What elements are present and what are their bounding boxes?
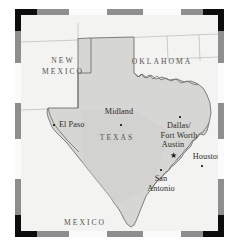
frame-left-corner-bottom (15, 215, 21, 237)
frame-bottom-seg-1 (37, 231, 69, 237)
frame-right-seg-5 (218, 179, 224, 215)
frame-left-corner-top (15, 9, 21, 31)
frame-top-seg-5 (181, 9, 203, 15)
frame-right-seg-4 (218, 139, 224, 179)
frame-top-seg-1 (37, 9, 69, 15)
frame-bottom-seg-5 (181, 231, 203, 237)
frame-right-corner-bottom (218, 215, 224, 237)
frame-left-seg-2 (15, 63, 21, 103)
frame-right-seg-2 (218, 63, 224, 103)
frame-right-corner-top (218, 9, 224, 31)
frame-left-seg-1 (15, 31, 21, 63)
frame-right-seg-1 (218, 31, 224, 63)
frame-bottom-seg-3 (107, 231, 143, 237)
frame-left-seg-5 (15, 179, 21, 215)
frame-left-seg-3 (15, 103, 21, 139)
frame-top-seg-3 (107, 9, 143, 15)
frame-top-seg-2 (69, 9, 107, 15)
frame-bottom-seg-2 (69, 231, 107, 237)
frame-right-seg-3 (218, 103, 224, 139)
decorative-frame (15, 9, 224, 237)
frame-left-seg-4 (15, 139, 21, 179)
texas-map-figure: NEW MEXICO OKLAHOMA TEXAS MEXICO Midland… (0, 0, 238, 248)
frame-top-seg-4 (143, 9, 181, 15)
frame-bottom-seg-4 (143, 231, 181, 237)
